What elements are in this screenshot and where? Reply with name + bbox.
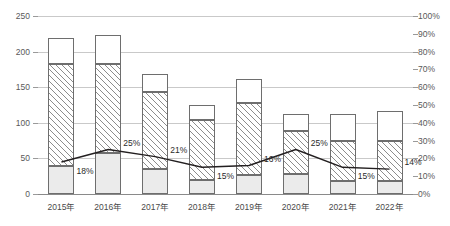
right-tick-mark [413, 16, 418, 17]
data-label-2020年: 25% [311, 138, 328, 148]
data-label-2017年: 21% [170, 145, 187, 155]
x-axis-label-2021年: 2021年 [329, 200, 357, 212]
right-tick-mark [413, 34, 418, 35]
data-label-2022年: 14% [405, 157, 422, 167]
line-series [38, 16, 413, 194]
right-axis-tick: 100% [418, 11, 440, 21]
plot-area: 18%25%21%15%16%25%15%14% [38, 16, 413, 194]
right-axis-tick: 40% [418, 118, 435, 128]
right-axis-tick: 10% [418, 171, 435, 181]
right-tick-mark [413, 105, 418, 106]
x-axis-label-2017年: 2017年 [141, 200, 169, 212]
left-axis-tick: 100 [16, 118, 30, 128]
right-axis-tick: 80% [418, 47, 435, 57]
right-tick-mark [413, 141, 418, 142]
x-axis-label-2022年: 2022年 [376, 200, 404, 212]
data-label-2018年: 15% [217, 171, 234, 181]
data-label-2015年: 18% [76, 166, 93, 176]
left-axis-tick: 150 [16, 82, 30, 92]
data-label-2021年: 15% [358, 171, 375, 181]
right-tick-mark [413, 69, 418, 70]
x-axis-label-2020年: 2020年 [282, 200, 310, 212]
right-axis-tick: 50% [418, 100, 435, 110]
left-axis-tick: 200 [16, 47, 30, 57]
right-axis-tick: 30% [418, 136, 435, 146]
percentage-line-path [61, 150, 389, 170]
left-axis-tick: 50 [21, 153, 30, 163]
left-tick-mark [33, 194, 38, 195]
right-tick-mark [413, 52, 418, 53]
data-label-2019年: 16% [264, 154, 281, 164]
left-axis-tick: 0 [25, 189, 30, 199]
left-axis-tick: 250 [16, 11, 30, 21]
x-axis-label-2015年: 2015年 [47, 200, 75, 212]
x-axis: 2015年2016年2017年2018年2019年2020年2021年2022年 [38, 198, 413, 218]
right-tick-mark [413, 87, 418, 88]
right-axis-tick: 70% [418, 64, 435, 74]
x-axis-label-2016年: 2016年 [94, 200, 122, 212]
data-label-2016年: 25% [123, 138, 140, 148]
right-axis-tick: 0% [418, 189, 430, 199]
axis-baseline [38, 194, 413, 195]
x-axis-label-2018年: 2018年 [188, 200, 216, 212]
right-tick-mark [413, 123, 418, 124]
right-tick-mark [413, 176, 418, 177]
right-axis: 100% 90% 80% 70% 60% 50% 40% 30% 20% 10%… [418, 16, 448, 194]
x-axis-label-2019年: 2019年 [235, 200, 263, 212]
right-axis-tick: 90% [418, 29, 435, 39]
right-axis-tick: 60% [418, 82, 435, 92]
chart-container: 250 200 150 100 50 0 100% 90% 80% 70% 60… [0, 0, 450, 226]
left-axis: 250 200 150 100 50 0 [0, 16, 30, 194]
right-tick-mark [413, 194, 418, 195]
